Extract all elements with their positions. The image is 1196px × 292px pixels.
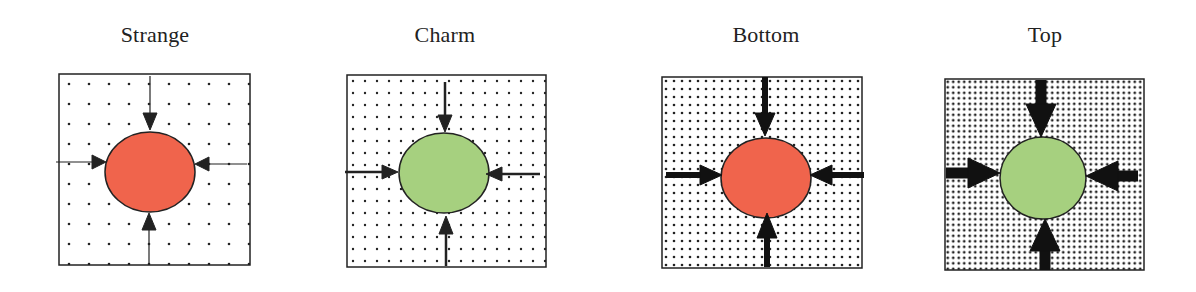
strange-quark-circle (105, 132, 195, 212)
strange-diagram (56, 74, 250, 265)
bottom-diagram (662, 77, 864, 268)
charm-diagram (345, 75, 546, 267)
bottom-quark-circle (721, 138, 811, 218)
top-diagram (945, 79, 1144, 270)
top-quark-circle (1000, 137, 1086, 219)
panel-strange (0, 0, 1196, 292)
charm-quark-circle (399, 133, 489, 213)
